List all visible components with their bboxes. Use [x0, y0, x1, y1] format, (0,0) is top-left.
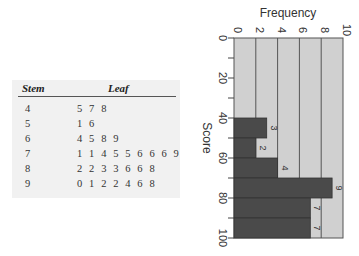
score-axis-label: Score [200, 122, 214, 154]
bar-value-label: 7 [312, 225, 322, 230]
frequency-tick: 8 [319, 27, 331, 33]
bar [234, 198, 310, 218]
histogram-chart: 324977 020406080100 0246810 Frequency Sc… [0, 0, 359, 256]
score-tick-labels: 020406080100 [217, 35, 229, 247]
bar [234, 118, 267, 138]
bar-value-label: 9 [334, 185, 344, 190]
bar-value-label: 3 [269, 125, 279, 130]
frequency-tick: 10 [341, 24, 353, 36]
score-tick: 20 [217, 72, 229, 84]
score-axis [228, 38, 234, 238]
bar [234, 218, 310, 238]
score-tick: 60 [217, 152, 229, 164]
frequency-tick: 0 [232, 27, 244, 33]
bar-value-label: 4 [280, 165, 290, 170]
score-tick: 0 [217, 35, 229, 41]
bar-value-label: 2 [258, 145, 268, 150]
frequency-tick: 6 [297, 27, 309, 33]
frequency-tick-labels: 0246810 [232, 24, 353, 36]
score-tick: 80 [217, 192, 229, 204]
score-tick: 100 [217, 229, 229, 247]
score-tick: 40 [217, 112, 229, 124]
frequency-tick: 2 [254, 27, 266, 33]
frequency-tick: 4 [276, 27, 288, 33]
bar [234, 138, 256, 158]
bar [234, 158, 278, 178]
bar-value-label: 7 [312, 205, 322, 210]
bar [234, 178, 332, 198]
frequency-axis-label: Frequency [260, 6, 317, 20]
